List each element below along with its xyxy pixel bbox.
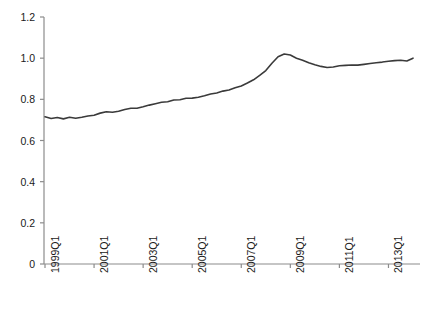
axis-group	[44, 17, 420, 264]
y-tick-label: 0.4	[5, 177, 35, 188]
y-tick-label: 0	[5, 259, 35, 270]
x-tick-label: 1999Q1	[50, 236, 61, 273]
y-tick-label: 1.2	[5, 12, 35, 23]
chart-canvas	[0, 0, 431, 320]
x-tick-label: 2003Q1	[148, 236, 159, 273]
data-series-line	[45, 54, 413, 119]
x-tick-label: 2007Q1	[246, 236, 257, 273]
x-tick-label: 2013Q1	[393, 236, 404, 273]
y-tick-label: 0.6	[5, 136, 35, 147]
y-tick-label: 0.2	[5, 218, 35, 229]
x-tick-label: 2001Q1	[99, 236, 110, 273]
y-tick-label: 1.0	[5, 53, 35, 64]
x-tick-label: 2005Q1	[197, 236, 208, 273]
y-tick-label: 0.8	[5, 94, 35, 105]
chart-figure: 00.20.40.60.81.01.2 1999Q12001Q12003Q120…	[0, 0, 431, 320]
x-tick-label: 2009Q1	[295, 236, 306, 273]
x-tick-label: 2011Q1	[344, 236, 355, 273]
